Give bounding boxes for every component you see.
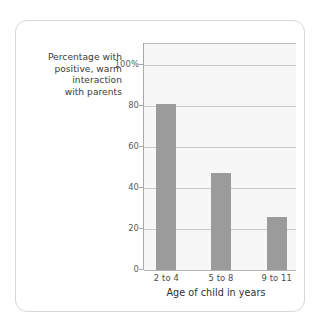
plot-area [144, 43, 296, 270]
x-tick-label-9-to-11: 9 to 11 [251, 273, 302, 283]
bar-2-to-4 [156, 104, 176, 270]
x-axis-label: Age of child in years [126, 287, 306, 298]
x-tick-label-2-to-4: 2 to 4 [141, 273, 192, 283]
y-tick-mark-40 [139, 187, 143, 188]
gridline-0 [144, 270, 296, 271]
y-tick-label-0: 0 [97, 264, 139, 274]
y-tick-label-40: 40 [97, 182, 139, 192]
bar-5-to-8 [211, 173, 231, 270]
y-tick-mark-60 [139, 146, 143, 147]
y-tick-label-100: 100% [97, 59, 139, 69]
y-axis-tick-labels: 020406080100% [91, 21, 139, 311]
x-axis-tick-labels: 2 to 45 to 89 to 11 [144, 273, 296, 287]
y-tick-label-80: 80 [97, 100, 139, 110]
figure-card: Percentage with positive, warm interacti… [15, 20, 305, 312]
gridline-100 [144, 65, 296, 66]
y-tick-label-60: 60 [97, 141, 139, 151]
y-tick-mark-80 [139, 105, 143, 106]
y-tick-mark-20 [139, 228, 143, 229]
y-tick-label-20: 20 [97, 223, 139, 233]
x-tick-label-5-to-8: 5 to 8 [196, 273, 247, 283]
y-tick-mark-100 [139, 64, 143, 65]
y-axis-line [143, 43, 144, 270]
y-tick-mark-0 [139, 269, 143, 270]
bar-9-to-11 [267, 217, 287, 270]
